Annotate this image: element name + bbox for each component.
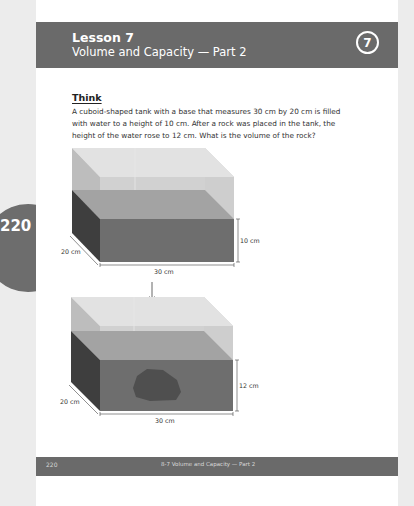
tank-before-diagram — [70, 148, 240, 267]
footer-section-title: 8-7 Volume and Capacity — Part 2 — [161, 461, 255, 467]
tank-before-width-label: 30 cm — [154, 268, 174, 275]
tank-before-height-label: 10 cm — [240, 237, 260, 244]
footer-page-number: 220 — [46, 461, 57, 468]
tank-after-width-label: 30 cm — [155, 417, 175, 424]
tank-before-depth-label: 20 cm — [61, 248, 81, 255]
tank-after-height-label: 12 cm — [239, 382, 259, 389]
tank-after-depth-label: 20 cm — [60, 398, 80, 405]
tank-after-diagram — [69, 297, 239, 416]
page-footer: 220 8-7 Volume and Capacity — Part 2 — [36, 457, 398, 476]
